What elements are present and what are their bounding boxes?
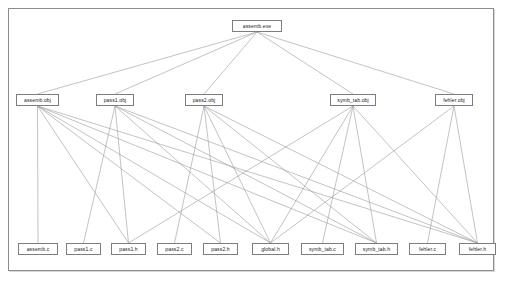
edge-pass1-obj-to-fehler-h	[115, 106, 478, 243]
edge-fehler-obj-to-global-h	[271, 106, 455, 243]
edge-fehler-obj-to-fehler-h	[454, 106, 478, 243]
edge-fehler-obj-to-fehler-c	[428, 106, 455, 243]
edge-assemb-exe-to-fehler-obj	[257, 32, 454, 94]
node-label: pass1.h	[112, 244, 145, 254]
node-symb-tab-c[interactable]: symb_tab.c	[301, 243, 344, 255]
node-assemb-obj[interactable]: assemb.obj	[16, 94, 59, 106]
edge-pass1-obj-to-global-h	[115, 106, 271, 243]
edge-assemb-obj-to-assemb-c	[38, 106, 39, 243]
edge-pass2-obj-to-fehler-h	[204, 106, 478, 243]
node-label: pass2.obj	[186, 95, 222, 105]
edge-pass2-obj-to-global-h	[204, 106, 271, 243]
edge-assemb-obj-to-global-h	[38, 106, 271, 243]
edge-pass2-obj-to-pass2-h	[204, 106, 221, 243]
edge-assemb-exe-to-assemb-obj	[38, 32, 258, 94]
edge-pass2-obj-to-pass2-c	[175, 106, 205, 243]
node-label: fehler.c	[410, 244, 445, 254]
node-pass2-obj[interactable]: pass2.obj	[185, 94, 223, 106]
node-label: symb_tab.c	[302, 244, 343, 254]
node-label: pass2.c	[158, 244, 191, 254]
edge-assemb-exe-to-pass2-obj	[204, 32, 257, 94]
node-label: fehler.obj	[436, 95, 472, 105]
edge-pass1-obj-to-pass1-h	[115, 106, 129, 243]
node-pass1-obj[interactable]: pass1.obj	[96, 94, 134, 106]
edge-assemb-exe-to-symb-tab-obj	[257, 32, 353, 94]
node-pass2-c[interactable]: pass2.c	[157, 243, 192, 255]
diagram-frame: assemb.exeassemb.objpass1.objpass2.objsy…	[8, 8, 494, 271]
node-symb-tab-h[interactable]: symb_tab.h	[355, 243, 398, 255]
edge-symb-tab-obj-to-fehler-h	[353, 106, 478, 243]
node-pass2-h[interactable]: pass2.h	[203, 243, 238, 255]
node-assemb-c[interactable]: assemb.c	[18, 243, 58, 255]
node-label: assemb.obj	[17, 95, 58, 105]
node-label: assemb.exe	[233, 21, 281, 31]
node-pass1-c[interactable]: pass1.c	[66, 243, 101, 255]
node-assemb-exe[interactable]: assemb.exe	[232, 20, 282, 32]
dependency-edges	[9, 9, 495, 272]
edge-symb-tab-obj-to-symb-tab-c	[323, 106, 354, 243]
node-label: fehler.h	[460, 244, 495, 254]
edge-assemb-obj-to-pass2-h	[38, 106, 221, 243]
node-label: symb_tab.obj	[331, 95, 375, 105]
edge-assemb-obj-to-pass1-h	[38, 106, 129, 243]
edge-pass1-obj-to-pass1-c	[84, 106, 116, 243]
node-label: pass2.h	[204, 244, 237, 254]
node-fehler-obj[interactable]: fehler.obj	[435, 94, 473, 106]
edge-assemb-exe-to-pass1-obj	[115, 32, 257, 94]
node-label: global.h	[253, 244, 288, 254]
edge-assemb-obj-to-fehler-h	[38, 106, 478, 243]
screenshot-canvas: assemb.exeassemb.objpass1.objpass2.objsy…	[0, 0, 509, 286]
node-fehler-h[interactable]: fehler.h	[459, 243, 496, 255]
edge-symb-tab-obj-to-pass1-h	[129, 106, 354, 243]
node-pass1-h[interactable]: pass1.h	[111, 243, 146, 255]
node-label: assemb.c	[19, 244, 57, 254]
node-label: pass1.obj	[97, 95, 133, 105]
node-global-h[interactable]: global.h	[252, 243, 289, 255]
edge-symb-tab-obj-to-symb-tab-h	[353, 106, 377, 243]
edge-pass2-obj-to-symb-tab-h	[204, 106, 377, 243]
edge-assemb-obj-to-symb-tab-h	[38, 106, 377, 243]
edge-symb-tab-obj-to-global-h	[271, 106, 354, 243]
node-symb-tab-obj[interactable]: symb_tab.obj	[330, 94, 376, 106]
node-label: pass1.c	[67, 244, 100, 254]
node-fehler-c[interactable]: fehler.c	[409, 243, 446, 255]
node-label: symb_tab.h	[356, 244, 397, 254]
edge-pass1-obj-to-symb-tab-h	[115, 106, 377, 243]
